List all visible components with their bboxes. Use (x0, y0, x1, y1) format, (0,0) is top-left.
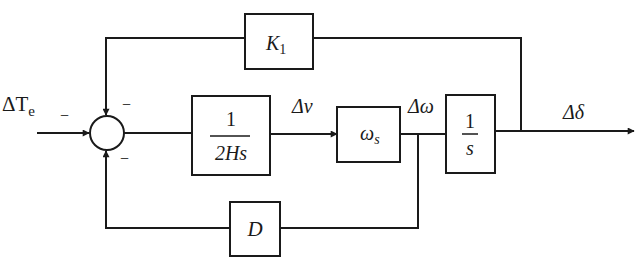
summing-junction (90, 116, 124, 150)
inertia-denominator: 2Hs (215, 142, 247, 164)
input-minus-sign: − (60, 107, 69, 124)
block-diagram: ΔTe − − − 1 2Hs Δν ωs Δω 1 s Δδ K1 D (0, 0, 639, 269)
input-label: ΔTe (2, 92, 35, 119)
delta-delta-label: Δδ (562, 101, 585, 123)
delta-nu-label: Δν (291, 95, 313, 117)
top-minus-sign: − (122, 96, 131, 113)
integrator-numerator: 1 (465, 110, 475, 132)
inertia-numerator: 1 (226, 108, 236, 130)
delta-omega-label: Δω (407, 95, 434, 117)
damping-label: D (246, 217, 262, 241)
bottom-minus-sign: − (120, 150, 129, 167)
integrator-denominator: s (466, 137, 474, 159)
